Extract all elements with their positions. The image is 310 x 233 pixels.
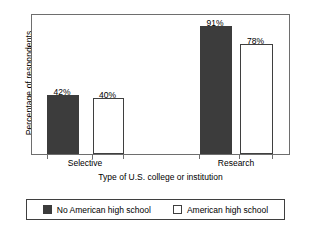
dark-square-swatch-icon: [43, 205, 52, 214]
x-axis-title: Type of U.S. college or institution: [31, 172, 290, 182]
legend-item-american-high-school: American high school: [173, 205, 268, 215]
bar-value-selective-american-high-school: 40%: [92, 90, 123, 100]
legend-label-no-american-high-school: No American high school: [57, 205, 151, 215]
chart-legend: No American high school American high sc…: [26, 199, 285, 220]
x-axis-category-research: Research: [196, 158, 276, 168]
bar-value-research-american-high-school: 78%: [239, 36, 272, 46]
x-axis-category-selective: Selective: [45, 158, 125, 168]
bar-research-american-high-school: [240, 44, 273, 154]
bar-value-selective-no-american-high-school: 42%: [46, 87, 78, 97]
bar-selective-american-high-school: [93, 98, 124, 154]
bar-chart-figure: Percentage of respondents 42% 40% 91% 78…: [0, 0, 310, 233]
legend-item-no-american-high-school: No American high school: [43, 205, 151, 215]
light-square-swatch-icon: [173, 205, 182, 214]
bar-value-research-no-american-high-school: 91%: [199, 18, 231, 28]
legend-label-american-high-school: American high school: [187, 205, 268, 215]
bar-selective-no-american-high-school: [47, 95, 79, 154]
bar-research-no-american-high-school: [200, 26, 232, 154]
